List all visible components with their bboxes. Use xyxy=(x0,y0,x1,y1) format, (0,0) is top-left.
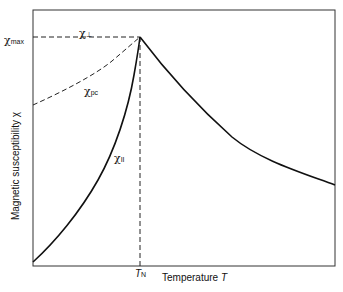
y-axis-label: Magnetic susceptibility χ xyxy=(11,112,21,220)
chi-parallel-label: χII xyxy=(114,149,125,165)
chi-max-label: χmax xyxy=(4,31,24,47)
plot-frame xyxy=(33,10,335,266)
chart-canvas xyxy=(0,0,343,292)
x-axis-label-text: Temperature xyxy=(162,272,221,283)
chi-pc-sub: pc xyxy=(91,89,98,96)
chi-symbol: χ xyxy=(114,152,121,165)
chi-perp-sub: ⊥ xyxy=(86,31,92,38)
chi-perp-label: χ⊥ xyxy=(79,24,92,40)
chi-pc-label: χpc xyxy=(84,82,98,98)
chi-symbol: χ xyxy=(79,27,86,40)
chi-paramagnetic-curve xyxy=(140,37,335,185)
tn-sub: N xyxy=(141,271,146,278)
x-axis-label: Temperature T xyxy=(162,273,227,283)
chi-symbol: χ xyxy=(4,34,11,47)
chi-max-sub: max xyxy=(11,38,24,45)
tn-label: TN xyxy=(135,269,146,279)
x-axis-label-var: T xyxy=(221,272,227,283)
chi-symbol: χ xyxy=(84,85,91,98)
chi-parallel-sub: II xyxy=(121,156,125,163)
